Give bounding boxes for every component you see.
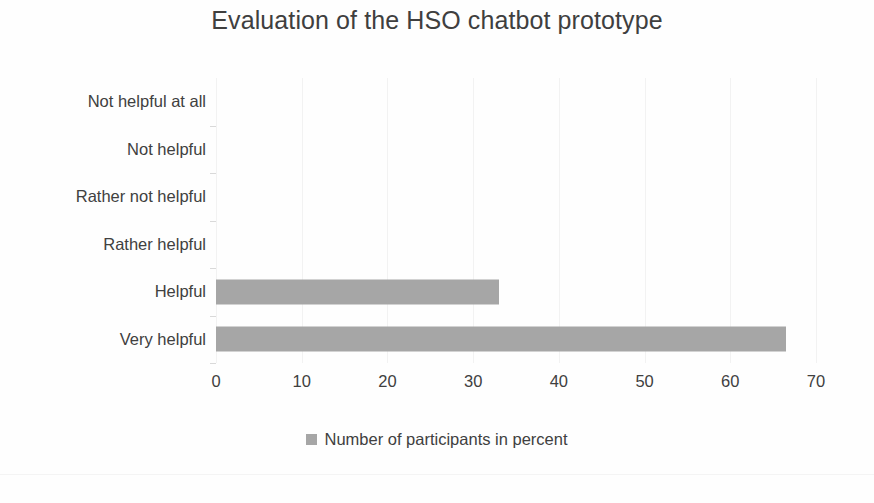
y-axis-tick [210,126,216,127]
scan-artifact-line [0,474,874,475]
x-axis-tick-label: 50 [635,372,653,391]
x-axis-tick-label: 40 [550,372,568,391]
bar-row [216,126,816,174]
bar-helpful[interactable] [216,279,499,304]
x-axis-tick-label: 70 [807,372,825,391]
chart-container: Evaluation of the HSO chatbot prototype … [0,0,874,503]
legend-label: Number of participants in percent [324,430,567,449]
y-axis-tick [210,316,216,317]
y-axis-label: Not helpful at all [0,78,206,126]
x-axis-tick-label: 20 [378,372,396,391]
y-axis-tick [210,221,216,222]
y-axis-tick [210,173,216,174]
y-axis-tick [210,268,216,269]
y-axis-label: Rather not helpful [0,173,206,221]
y-axis-label: Helpful [0,268,206,316]
chart-legend: Number of participants in percent [0,430,874,449]
y-axis-label: Rather helpful [0,221,206,269]
x-axis-labels: 010203040506070 [216,372,816,398]
bar-row [216,268,816,316]
x-axis-tick-label: 60 [721,372,739,391]
bar-row [216,316,816,364]
bar-series [216,78,816,363]
y-axis-label: Not helpful [0,126,206,174]
y-axis-label: Very helpful [0,316,206,364]
bar-row [216,221,816,269]
x-axis-tick-label: 0 [211,372,220,391]
bar-row [216,78,816,126]
chart-title: Evaluation of the HSO chatbot prototype [0,6,874,35]
bar-row [216,173,816,221]
y-axis-labels: Not helpful at allNot helpfulRather not … [0,78,206,363]
x-axis-tick-label: 10 [293,372,311,391]
x-axis-tick-label: 30 [464,372,482,391]
bar-very-helpful[interactable] [216,327,786,352]
legend-swatch-icon [306,434,317,445]
plot-area [216,78,816,363]
y-axis-tick [210,363,216,364]
gridline [816,78,817,363]
